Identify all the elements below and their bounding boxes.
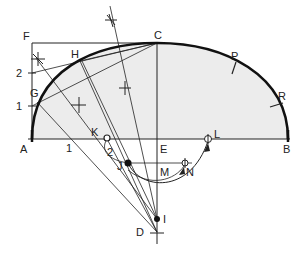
point-k-marker bbox=[104, 135, 110, 141]
label-r: R bbox=[278, 90, 286, 102]
label-div-1-horizontal: 1 bbox=[66, 142, 72, 154]
label-n: N bbox=[186, 166, 194, 178]
diagram-canvas: A B C D E F G H I J K L M N P R 2 1 1 2 bbox=[0, 0, 303, 260]
label-h: H bbox=[71, 48, 79, 60]
label-c: C bbox=[154, 29, 162, 41]
label-p: P bbox=[231, 50, 238, 62]
label-k: K bbox=[91, 126, 99, 138]
construction-diagram: A B C D E F G H I J K L M N P R 2 1 1 2 bbox=[0, 0, 303, 260]
label-f: F bbox=[23, 30, 30, 42]
cross-mark-left bbox=[31, 52, 45, 66]
label-b: B bbox=[283, 143, 290, 155]
label-m: M bbox=[160, 166, 169, 178]
label-i: I bbox=[163, 213, 166, 225]
label-div-2-vertical: 2 bbox=[16, 67, 22, 79]
label-j: J bbox=[117, 160, 123, 172]
point-j-marker bbox=[125, 160, 132, 167]
label-e: E bbox=[160, 143, 167, 155]
label-a: A bbox=[20, 143, 28, 155]
label-g: G bbox=[30, 87, 39, 99]
point-i-marker bbox=[154, 216, 160, 222]
label-div-1-vertical: 1 bbox=[16, 100, 22, 112]
label-l: L bbox=[214, 128, 220, 140]
label-d: D bbox=[136, 226, 144, 238]
cross-mark-top bbox=[105, 14, 117, 27]
label-div-2-arc: 2 bbox=[107, 146, 113, 158]
arc-j-n bbox=[128, 166, 184, 180]
